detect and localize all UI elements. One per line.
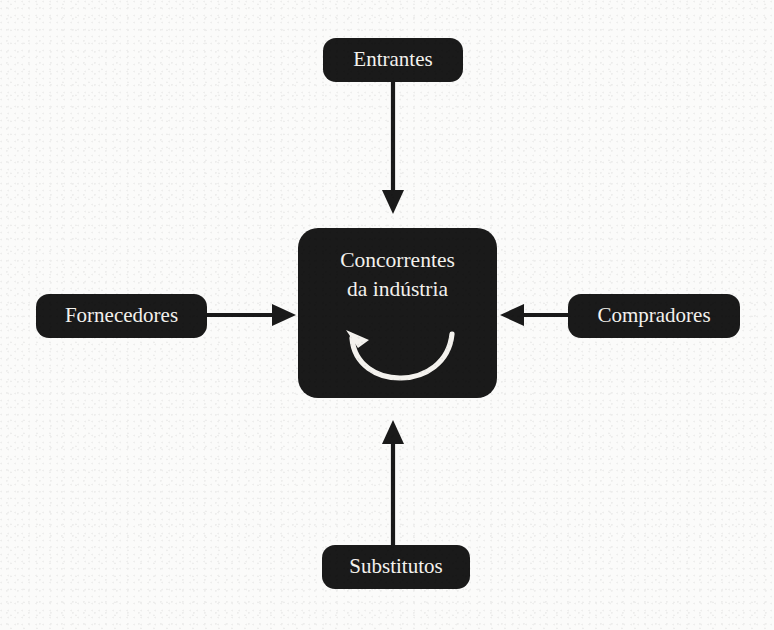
connector-substitutos-to-center bbox=[382, 420, 404, 545]
node-label-fornecedores: Fornecedores bbox=[65, 303, 178, 327]
diagram-canvas: Concorrentes da indústria Entrantes Forn… bbox=[0, 0, 774, 630]
node-concorrentes-da-industria[interactable]: Concorrentes da indústria bbox=[298, 228, 497, 398]
connector-compradores-to-center bbox=[500, 304, 568, 326]
node-entrantes[interactable]: Entrantes bbox=[323, 38, 463, 82]
arrowhead-down-icon bbox=[382, 190, 404, 214]
node-fornecedores[interactable]: Fornecedores bbox=[36, 294, 207, 338]
arrowhead-up-icon bbox=[382, 420, 404, 444]
node-label-center-line1: Concorrentes bbox=[340, 248, 455, 272]
node-label-entrantes: Entrantes bbox=[353, 47, 432, 71]
connector-entrantes-to-center bbox=[382, 82, 404, 214]
arrowhead-left-icon bbox=[500, 304, 524, 326]
node-substitutos[interactable]: Substitutos bbox=[322, 545, 470, 589]
node-label-center-line2: da indústria bbox=[347, 277, 448, 301]
five-forces-diagram: Concorrentes da indústria Entrantes Forn… bbox=[0, 0, 774, 630]
arrowhead-right-icon bbox=[272, 304, 296, 326]
connector-fornecedores-to-center bbox=[207, 304, 296, 326]
node-label-compradores: Compradores bbox=[597, 303, 710, 327]
node-compradores[interactable]: Compradores bbox=[568, 294, 740, 338]
node-label-substitutos: Substitutos bbox=[349, 554, 442, 578]
